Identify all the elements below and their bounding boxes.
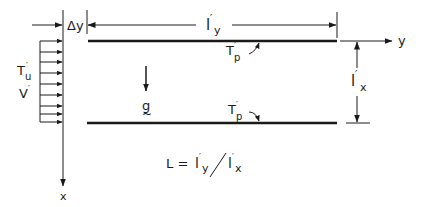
formula-lhs: L = — [166, 156, 188, 171]
tp-bottom-annotation: T ′ p — [227, 100, 259, 122]
inflow-velocity-profile — [40, 41, 62, 122]
ly-prime: ′ — [210, 13, 213, 24]
formula-num-prime: ′ — [199, 152, 201, 162]
x-axis: x — [60, 28, 67, 203]
v-prime: ′ — [28, 84, 30, 94]
channel-flow-diagram: Δy l ′ y y x l ′ x — [0, 0, 422, 207]
tp-top-prime: ′ — [234, 41, 236, 51]
v-label: V — [19, 86, 28, 101]
tp-bottom-main: T — [227, 102, 236, 117]
formula-den-prime: ′ — [232, 152, 234, 162]
tp-bottom-sub: p — [236, 111, 242, 122]
lx-dimension: l ′ x — [346, 42, 370, 123]
lx-prime: ′ — [355, 69, 358, 80]
delta-y-label: Δy — [67, 18, 84, 33]
tp-top-main: T — [225, 43, 234, 58]
formula-den-sub: x — [235, 162, 242, 175]
formula-num-sub: y — [202, 162, 209, 175]
x-axis-label: x — [60, 190, 67, 203]
formula-slash — [210, 153, 226, 177]
y-axis: y — [340, 33, 406, 48]
y-axis-label: y — [398, 33, 406, 48]
ly-dimension: l ′ y — [88, 12, 337, 38]
inflow-labels: T ′ u V ′ — [16, 61, 31, 101]
tp-bottom-prime: ′ — [236, 100, 238, 110]
gravity-vector-tilde: ~ — [142, 107, 152, 121]
tu-prime: ′ — [26, 61, 28, 71]
gravity-indicator: g ~ — [142, 66, 152, 121]
tp-top-sub: p — [234, 52, 240, 63]
lx-label-sub: x — [360, 81, 367, 94]
tu-label-main: T — [16, 63, 25, 78]
tu-label-sub: u — [25, 71, 31, 82]
ly-label-sub: y — [214, 24, 221, 37]
tp-top-annotation: T ′ p — [225, 41, 259, 63]
aspect-ratio-formula: L = l ′ y l ′ x — [166, 152, 242, 177]
delta-y-dimension: Δy — [32, 10, 87, 34]
